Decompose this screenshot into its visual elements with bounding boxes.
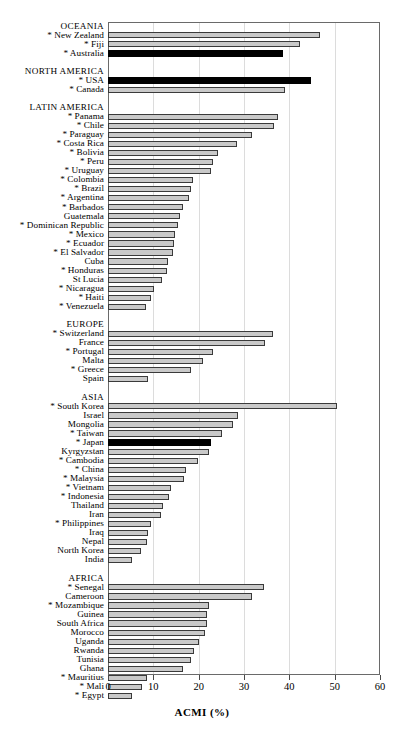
x-tick-label-40: 40	[269, 680, 309, 694]
bar	[108, 530, 148, 536]
bar	[108, 657, 191, 663]
x-tick-label-10: 10	[133, 680, 173, 694]
bar	[108, 213, 180, 219]
bar	[108, 295, 151, 301]
bar-row-label: * Australia	[0, 48, 104, 58]
bar	[108, 403, 337, 409]
bar	[108, 195, 189, 201]
bar-row[interactable]: * Australia	[0, 49, 404, 58]
bar	[108, 249, 173, 255]
bar	[108, 231, 175, 237]
bar-row-label: India	[0, 554, 104, 564]
bar-row-label: * Canada	[0, 84, 104, 94]
bar	[108, 548, 141, 554]
bar	[108, 141, 237, 147]
bar	[108, 32, 320, 38]
bar	[108, 159, 213, 165]
bar	[108, 286, 154, 292]
bar	[108, 630, 205, 636]
bar	[108, 132, 252, 138]
bar	[108, 367, 191, 373]
bar	[108, 458, 198, 464]
bar	[108, 186, 191, 192]
bar	[108, 648, 194, 654]
bar	[108, 467, 186, 473]
bar	[108, 521, 151, 527]
bar-row-label: * Venezuela	[0, 301, 104, 311]
x-tick-label-0: 0	[88, 680, 128, 694]
bar	[108, 258, 168, 264]
bar	[108, 494, 169, 500]
bar	[108, 114, 278, 120]
bar	[108, 340, 265, 346]
bar	[108, 593, 252, 599]
bar	[108, 449, 209, 455]
bar	[108, 430, 222, 436]
bar	[108, 584, 264, 590]
x-axis-title: ACMI (%)	[0, 706, 404, 718]
bar	[108, 277, 162, 283]
bar	[108, 222, 178, 228]
x-tick-label-20: 20	[179, 680, 219, 694]
bar	[108, 376, 148, 382]
bar-rows-container: OCEANIA* New Zealand* Fiji* AustraliaNOR…	[0, 22, 404, 675]
bar	[108, 304, 146, 310]
bar-row[interactable]: India	[0, 556, 404, 565]
acmi-bar-chart-figure: OCEANIA* New Zealand* Fiji* AustraliaNOR…	[0, 0, 404, 744]
bar	[108, 539, 147, 545]
x-tick-label-50: 50	[315, 680, 355, 694]
bar	[108, 666, 183, 672]
bar	[108, 177, 193, 183]
bar	[108, 602, 209, 608]
bar	[108, 421, 233, 427]
bar	[108, 268, 167, 274]
bar	[108, 168, 211, 174]
bar	[108, 412, 238, 418]
bar-row[interactable]: Spain	[0, 375, 404, 384]
bar	[108, 503, 163, 509]
bar-row[interactable]: * Canada	[0, 85, 404, 94]
bar	[108, 204, 183, 210]
bar	[108, 50, 283, 56]
bar	[108, 639, 199, 645]
bar	[108, 331, 273, 337]
bar	[108, 123, 274, 129]
bar	[108, 349, 213, 355]
bar	[108, 41, 300, 47]
bar	[108, 87, 285, 93]
bar	[108, 77, 311, 83]
bar	[108, 557, 132, 563]
bar	[108, 150, 218, 156]
bar	[108, 611, 207, 617]
bar-row-label: Spain	[0, 373, 104, 383]
bar	[108, 620, 207, 626]
bar	[108, 358, 203, 364]
x-tick-label-60: 60	[360, 680, 400, 694]
bar	[108, 512, 161, 518]
bar	[108, 240, 174, 246]
bar	[108, 485, 171, 491]
x-tick-label-30: 30	[224, 680, 264, 694]
bar	[108, 476, 184, 482]
bar-row[interactable]: * Venezuela	[0, 303, 404, 312]
bar	[108, 439, 211, 445]
